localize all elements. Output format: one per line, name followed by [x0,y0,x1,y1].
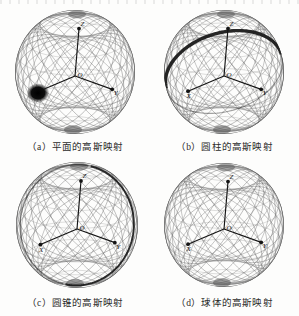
caption-d: （d）球体的高斯映射 [150,295,299,309]
panel-b [150,8,299,138]
caption-b: （b）圆柱的高斯映射 [150,139,299,153]
caption-a: （a）平面的高斯映射 [0,139,150,153]
gauss-map-figure: ZXYOZXYOZXYOZXYO （a）平面的高斯映射 （b）圆柱的高斯映射 （… [0,0,299,316]
panel-d [150,160,299,290]
panel-c [0,160,150,290]
panel-a [0,8,150,138]
caption-c: （c）圆锥的高斯映射 [0,295,150,309]
